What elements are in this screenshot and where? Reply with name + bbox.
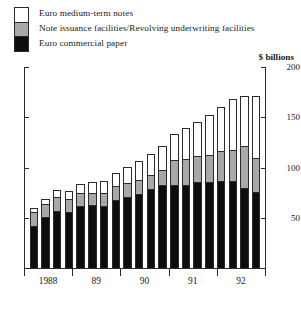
x-axis-separator [217,269,218,276]
x-axis-separator [169,269,170,276]
bar-segment-euro-medium-term-notes [89,183,95,193]
bar-segment-euro-commercial-paper [183,185,189,268]
bar-91-q2 [182,128,190,268]
bar-segment-nif-ruf [241,146,247,188]
x-axis-separator [265,269,266,276]
bar-segment-euro-commercial-paper [31,226,37,269]
bar-91-q1 [170,134,178,268]
bar-segment-nif-ruf [42,204,48,218]
bar-segment-euro-commercial-paper [230,181,236,268]
y-axis-units-label: $ billions [259,52,295,62]
bar-segment-nif-ruf [230,150,236,181]
bar-segment-euro-commercial-paper [159,185,165,268]
bar-slot [192,67,204,268]
legend-item-euro-commercial-paper: Euro commercial paper [39,36,286,51]
bar-89-q3 [100,181,108,268]
x-axis-year-band: 198889909192 [24,269,266,295]
bar-1988-q1 [30,208,38,268]
bar-segment-euro-medium-term-notes [194,123,200,156]
bar-segment-nif-ruf [54,197,60,212]
bar-92-q1 [217,107,225,268]
x-axis-separator [24,269,25,276]
y-tick-label-200: 200 [287,62,301,72]
bar-slot [98,67,110,268]
y-tick-label-150: 150 [287,112,301,122]
bar-segment-euro-commercial-paper [54,211,60,268]
bar-segment-euro-commercial-paper [89,205,95,268]
bar-slot [227,67,239,268]
bar-90-q2 [135,161,143,268]
bar-slot [157,67,169,268]
bar-segment-nif-ruf [253,158,259,192]
bar-segment-euro-medium-term-notes [136,162,142,180]
bar-segment-euro-commercial-paper [101,206,107,268]
bar-1988-q3 [53,190,61,268]
y-tick-label-50: 50 [291,213,300,223]
chart-figure: Euro medium-term notes Note issuance fac… [0,0,300,309]
bar-series-group [25,67,265,268]
bar-89-q2 [88,182,96,268]
bar-segment-nif-ruf [206,155,212,182]
bar-segment-euro-medium-term-notes [171,135,177,160]
bar-92-q4 [252,96,260,268]
bar-slot [133,67,145,268]
bar-segment-euro-medium-term-notes [230,100,236,150]
bar-segment-euro-commercial-paper [124,197,130,268]
bar-segment-euro-commercial-paper [171,185,177,268]
bar-segment-euro-commercial-paper [77,206,83,268]
bar-slot [63,67,75,268]
bar-segment-nif-ruf [89,193,95,206]
bar-segment-euro-commercial-paper [194,182,200,268]
bar-segment-euro-medium-term-notes [159,147,165,170]
bar-segment-euro-medium-term-notes [148,155,154,175]
bar-segment-nif-ruf [194,156,200,182]
legend-item-euro-medium-term-notes: Euro medium-term notes [39,6,286,21]
x-axis-label-92: 92 [236,276,245,286]
bar-segment-euro-medium-term-notes [113,174,119,187]
chart-legend: Euro medium-term notes Note issuance fac… [14,4,286,52]
bar-segment-nif-ruf [124,183,130,197]
legend-swatch-euro-medium-term-notes [15,8,28,23]
bar-segment-euro-commercial-paper [241,188,247,268]
bar-slot [215,67,227,268]
bar-90-q3 [147,154,155,268]
bar-segment-nif-ruf [171,160,177,185]
bar-90-q1 [123,167,131,269]
bar-segment-euro-medium-term-notes [66,192,72,199]
bar-segment-nif-ruf [159,170,165,185]
legend-swatch-stack [14,7,29,52]
bar-segment-euro-medium-term-notes [124,168,130,184]
bar-segment-euro-medium-term-notes [253,97,259,158]
bar-segment-nif-ruf [113,186,119,200]
bar-segment-euro-medium-term-notes [206,116,212,155]
bar-90-q4 [158,146,166,268]
bar-segment-nif-ruf [218,151,224,181]
bar-91-q3 [193,122,201,268]
legend-swatch-euro-commercial-paper [15,37,28,51]
bar-slot [87,67,99,268]
y-tick-label-100: 100 [287,163,301,173]
bar-slot [250,67,262,268]
bar-segment-euro-commercial-paper [136,194,142,268]
bar-slot [168,67,180,268]
bar-slot [75,67,87,268]
bar-segment-euro-medium-term-notes [101,182,107,194]
bar-segment-nif-ruf [136,180,142,194]
x-axis-label-91: 91 [188,276,197,286]
bar-slot [40,67,52,268]
bar-91-q4 [205,115,213,268]
bar-segment-euro-medium-term-notes [218,108,224,151]
bar-segment-nif-ruf [183,159,189,185]
bar-slot [145,67,157,268]
bar-slot [180,67,192,268]
bar-92-q2 [229,99,237,268]
bar-slot [122,67,134,268]
bar-segment-euro-commercial-paper [148,189,154,268]
legend-swatch-nif-ruf [15,23,28,38]
bar-89-q1 [76,184,84,268]
plot-area: 50100150200 [24,67,266,269]
x-axis-label-89: 89 [92,276,101,286]
bar-segment-euro-medium-term-notes [241,97,247,146]
bar-segment-euro-medium-term-notes [183,129,189,159]
bar-segment-euro-commercial-paper [113,200,119,268]
